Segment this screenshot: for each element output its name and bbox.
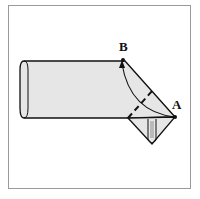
fabric-tube — [20, 61, 175, 118]
label-a: A — [172, 98, 181, 111]
folded-flap — [128, 117, 175, 144]
point-a-marker — [173, 115, 177, 119]
label-b: B — [119, 40, 128, 53]
point-b-marker — [121, 58, 125, 62]
fold-diagram — [0, 0, 200, 199]
